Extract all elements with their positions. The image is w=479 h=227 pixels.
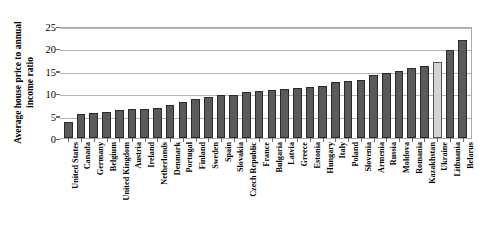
bar-greece[interactable] bbox=[293, 88, 302, 138]
plot-area bbox=[60, 27, 472, 139]
x-label-slot: Spain bbox=[215, 140, 228, 226]
x-label-slot: Romania bbox=[406, 140, 419, 226]
y-tick-label-0: 0 bbox=[30, 134, 56, 145]
bar-france[interactable] bbox=[255, 91, 264, 138]
bar-slot bbox=[405, 28, 418, 138]
bar-slovenia[interactable] bbox=[357, 80, 366, 138]
bar-sweden[interactable] bbox=[204, 97, 213, 138]
x-label-slot: Canada bbox=[75, 140, 88, 226]
x-label-slot: Greece bbox=[292, 140, 305, 226]
y-tick-label-25: 25 bbox=[30, 22, 56, 33]
x-label-slot: Belarus bbox=[457, 140, 470, 226]
bar-slot bbox=[164, 28, 177, 138]
x-label-slot: Estonia bbox=[304, 140, 317, 226]
bar-slot bbox=[62, 28, 75, 138]
bar-moldova[interactable] bbox=[395, 71, 404, 138]
x-label-slot: Sweden bbox=[202, 140, 215, 226]
bar-slovakia[interactable] bbox=[229, 95, 238, 138]
bar-belarus[interactable] bbox=[458, 40, 467, 138]
bar-slot bbox=[342, 28, 355, 138]
x-label-slot: Netherlands bbox=[151, 140, 164, 226]
bar-hungary[interactable] bbox=[318, 86, 327, 138]
bar-lithuania[interactable] bbox=[446, 50, 455, 138]
bar-slot bbox=[444, 28, 457, 138]
x-label-slot: Russia bbox=[381, 140, 394, 226]
bar-ukraine[interactable] bbox=[433, 62, 442, 138]
bar-canada[interactable] bbox=[77, 114, 86, 138]
y-tick-label-10: 10 bbox=[30, 89, 56, 100]
y-axis-ticks: 0510152025 bbox=[26, 27, 56, 139]
bar-italy[interactable] bbox=[331, 82, 340, 138]
bar-slot bbox=[189, 28, 202, 138]
bar-slot bbox=[393, 28, 406, 138]
bar-latvia[interactable] bbox=[280, 89, 289, 138]
x-label-slot: United Kingdom bbox=[113, 140, 126, 226]
bar-slot bbox=[253, 28, 266, 138]
x-label-slot: Moldova bbox=[394, 140, 407, 226]
x-label-slot: Finland bbox=[190, 140, 203, 226]
bar-slot bbox=[87, 28, 100, 138]
x-label-slot: Bulgaria bbox=[266, 140, 279, 226]
bar-slot bbox=[176, 28, 189, 138]
x-label-slot: Slovakia bbox=[228, 140, 241, 226]
x-label-slot: Ireland bbox=[139, 140, 152, 226]
bar-slot bbox=[227, 28, 240, 138]
x-label-slot: Poland bbox=[343, 140, 356, 226]
bar-united-kingdom[interactable] bbox=[115, 110, 124, 138]
bar-ireland[interactable] bbox=[140, 109, 149, 138]
bar-slot bbox=[380, 28, 393, 138]
x-label-slot: Hungary bbox=[317, 140, 330, 226]
x-label-slot: Slovenia bbox=[355, 140, 368, 226]
x-label-slot: France bbox=[253, 140, 266, 226]
bar-poland[interactable] bbox=[344, 81, 353, 138]
bar-series bbox=[60, 28, 471, 138]
bar-united-states[interactable] bbox=[64, 122, 73, 138]
bar-slot bbox=[75, 28, 88, 138]
bar-slot bbox=[355, 28, 368, 138]
x-axis-labels: United StatesCanadaGermanyBelgiumUnited … bbox=[60, 140, 472, 226]
bar-slot bbox=[291, 28, 304, 138]
x-label-slot: Germany bbox=[88, 140, 101, 226]
bar-germany[interactable] bbox=[89, 113, 98, 138]
bar-portugal[interactable] bbox=[179, 102, 188, 138]
x-label-slot: Ukraine bbox=[432, 140, 445, 226]
x-label-slot: Czech Republic bbox=[241, 140, 254, 226]
x-tick-label-belarus: Belarus bbox=[467, 142, 475, 169]
bar-slot bbox=[456, 28, 469, 138]
bar-spain[interactable] bbox=[217, 95, 226, 138]
bar-finland[interactable] bbox=[191, 99, 200, 138]
bar-slot bbox=[202, 28, 215, 138]
bar-slot bbox=[126, 28, 139, 138]
x-label-slot: Lithuania bbox=[445, 140, 458, 226]
bar-slot bbox=[240, 28, 253, 138]
bar-slot bbox=[418, 28, 431, 138]
bar-slot bbox=[266, 28, 279, 138]
bar-slot bbox=[278, 28, 291, 138]
bar-romania[interactable] bbox=[407, 68, 416, 138]
bar-kazakhstan[interactable] bbox=[420, 66, 429, 138]
bar-armenia[interactable] bbox=[369, 75, 378, 138]
bar-slot bbox=[367, 28, 380, 138]
house-price-income-ratio-chart: Average house price to annual income rat… bbox=[0, 0, 479, 227]
bar-slot bbox=[304, 28, 317, 138]
x-label-slot: Denmark bbox=[164, 140, 177, 226]
bar-austria[interactable] bbox=[128, 109, 137, 138]
x-label-slot: Kazakhstan bbox=[419, 140, 432, 226]
y-tick-label-15: 15 bbox=[30, 66, 56, 77]
bar-belgium[interactable] bbox=[102, 112, 111, 138]
x-label-slot: Austria bbox=[126, 140, 139, 226]
bar-slot bbox=[138, 28, 151, 138]
x-label-slot: Belgium bbox=[100, 140, 113, 226]
bar-slot bbox=[100, 28, 113, 138]
bar-slot bbox=[151, 28, 164, 138]
bar-czech-republic[interactable] bbox=[242, 92, 251, 138]
x-label-slot: Latvia bbox=[279, 140, 292, 226]
bar-netherlands[interactable] bbox=[153, 108, 162, 138]
bar-bulgaria[interactable] bbox=[268, 90, 277, 138]
bar-russia[interactable] bbox=[382, 73, 391, 138]
bar-denmark[interactable] bbox=[166, 105, 175, 138]
x-label-slot: Portugal bbox=[177, 140, 190, 226]
bar-slot bbox=[215, 28, 228, 138]
bar-estonia[interactable] bbox=[306, 87, 315, 138]
bar-slot bbox=[329, 28, 342, 138]
